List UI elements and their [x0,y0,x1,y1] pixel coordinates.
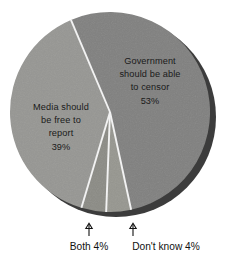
media-label-line3: report [49,128,74,138]
pie-chart-svg: Government should be able to censor 53% … [0,0,230,260]
media-label-line2: be free to [41,115,81,125]
callout-arrows [86,223,136,236]
media-label-line1: Media should [33,102,89,112]
both-callout-label: Both 4% [70,241,109,252]
pie-chart: Government should be able to censor 53% … [0,0,230,260]
dont-know-callout-label: Don't know 4% [132,241,200,252]
media-label-value: 39% [52,142,71,152]
government-label-line2: should be able [119,69,180,79]
callout-labels: Both 4% Don't know 4% [70,241,200,252]
government-label-line1: Government [124,56,176,66]
government-label-value: 53% [141,96,160,106]
government-label-line3: to censor [131,82,170,92]
